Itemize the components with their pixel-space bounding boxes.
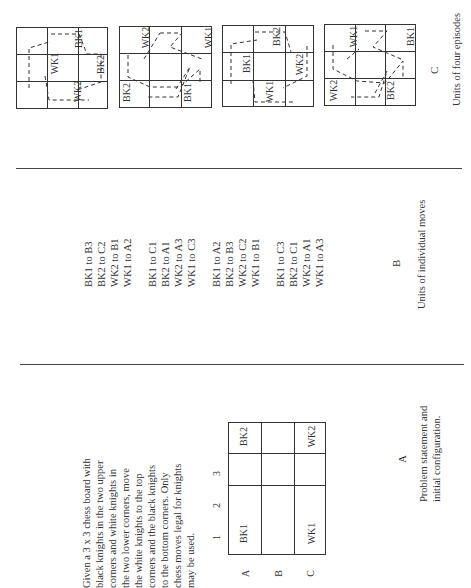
move-line: WK1 to A2 [121,239,134,287]
move-line: WK2 to C2 [236,239,249,287]
move-line: BK1 to C3 [274,239,287,287]
initial-configuration-board: BK1 BK2 WK1 WK2 [228,422,326,555]
episode-board-4: WK1 BK1 WK2 BK2 [324,24,416,106]
move-path-icon [223,26,315,108]
panel-b-caption: Units of individual moves [416,200,429,309]
piece-wk2: WK2 [306,426,317,448]
move-line: WK1 to C3 [185,239,198,287]
move-path-icon [120,27,213,109]
move-path-icon [325,25,417,107]
move-line: BK2 to A1 [159,239,172,287]
move-line: BK2 to C1 [287,239,300,287]
move-line: BK1 to A2 [210,239,223,287]
panel-c-caption: Units of four episodes [451,13,464,106]
column-label: 3 [211,471,222,476]
move-path-icon [17,28,109,110]
column-label: 1 [211,535,222,540]
panel-a-letter: A [396,455,408,463]
move-line: BK1 to C1 [146,239,159,287]
episode-board-3: BK1 BK2 WK2 WK1 [222,25,314,107]
move-line: WK1 to A3 [313,239,326,287]
move-line: WK2 to A1 [300,239,313,287]
column-label: 2 [211,503,222,508]
divider-b-a [20,364,464,365]
piece-bk1: BK1 [238,524,249,543]
move-group-3: BK1 to A2 BK2 to B3 WK2 to C2 WK1 to B1 [210,239,262,287]
piece-wk1: WK1 [306,523,317,545]
move-group-4: BK1 to C3 BK2 to C1 WK2 to A1 WK1 to A3 [274,239,326,287]
move-line: BK2 to B3 [223,239,236,287]
move-line: BK2 to C2 [95,239,108,287]
move-group-1: BK1 to B3 BK2 to C2 WK2 to B1 WK1 to A2 [82,239,134,287]
piece-bk2: BK2 [238,427,249,446]
panel-a-caption: Problem statement and initial configurat… [418,406,443,502]
move-line: WK2 to A3 [172,239,185,287]
row-label: C [305,570,316,577]
row-label: A [240,570,251,577]
row-label: B [273,570,284,577]
move-line: WK1 to B1 [249,239,262,287]
panel-c-letter: C [428,67,440,74]
move-line: BK1 to B3 [82,239,95,287]
episode-board-2: WK2 WK1 BK2 BK1 [119,26,212,108]
panel-b-letter: B [390,260,402,267]
episode-board-1: WK1 BK1 BK2 WK2 [16,27,108,109]
move-group-2: BK1 to C1 BK2 to A1 WK2 to A3 WK1 to C3 [146,239,198,287]
divider-c-b [16,168,462,169]
move-line: WK2 to B1 [108,239,121,287]
problem-statement: Given a 3 x 3 chess board with black kni… [80,458,197,588]
